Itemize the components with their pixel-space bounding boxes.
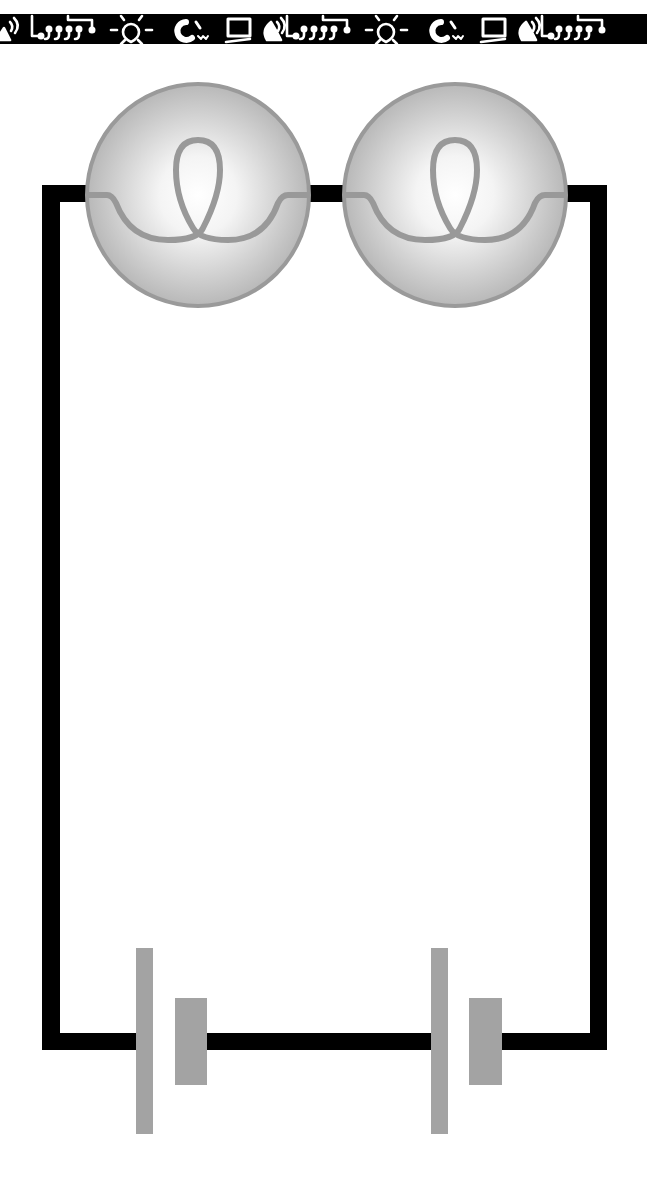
battery-cell-1 <box>136 948 207 1134</box>
bulb-glass <box>87 84 309 306</box>
positive-plate <box>431 948 448 1134</box>
wire-bottom-left <box>42 1033 137 1050</box>
wire-bottom-middle <box>205 1033 433 1050</box>
wire-left <box>42 185 60 1050</box>
negative-plate <box>469 998 502 1085</box>
negative-plate <box>175 998 207 1085</box>
wire-right <box>590 185 607 1050</box>
series-circuit-diagram <box>0 0 647 1183</box>
wire-bottom-right <box>500 1033 607 1050</box>
light-bulb-2 <box>344 84 567 306</box>
battery-cell-2 <box>431 948 502 1134</box>
light-bulb-1 <box>86 84 310 306</box>
wires <box>42 185 607 1050</box>
bulb-glass <box>344 84 566 306</box>
positive-plate <box>136 948 153 1134</box>
